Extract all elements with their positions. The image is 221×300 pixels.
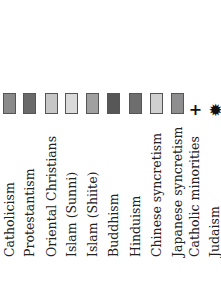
legend-label: Islam (Sunni) [64,172,80,257]
legend-label: Judaism [207,206,221,257]
legend-entry-catholicism: Catholicism [0,0,21,300]
legend-entry-islam-sunni: Islam (Sunni) [62,0,83,300]
legend-label: Buddhism [106,193,122,257]
swatch-japanese-syncretism [171,93,184,114]
religion-legend: Catholicism Protestantism Oriental Chris… [0,0,221,300]
legend-entry-chinese-syncretism: Chinese syncretism [147,0,168,300]
legend-label: Oriental Christians [44,136,60,257]
swatch-buddhism [107,93,120,114]
legend-entry-protestantism: Protestantism [20,0,41,300]
legend-entry-hinduism: Hinduism [126,0,147,300]
legend-label: Islam (Shiite) [85,172,101,257]
legend-label: Protestantism [22,168,38,257]
legend-entry-buddhism: Buddhism [104,0,125,300]
legend-label: Japanese syncretism [170,127,186,257]
legend-label: Chinese syncretism [149,133,165,257]
swatch-hinduism [129,93,142,114]
swatch-protestantism [23,93,36,114]
swatch-islam-shiite [86,93,99,114]
star-icon: ✹ [205,101,221,119]
swatch-oriental-christians [45,93,58,114]
legend-label: Catholic minorities [187,136,203,257]
legend-entry-catholic-minorities: + Catholic minorities [185,0,206,300]
legend-label: Hinduism [128,196,144,257]
legend-entry-oriental-christians: Oriental Christians [42,0,63,300]
legend-entry-islam-shiite: Islam (Shiite) [83,0,104,300]
legend-entry-judaism: ✹ Judaism [205,0,221,300]
swatch-chinese-syncretism [150,93,163,114]
legend-label: Catholicism [2,182,18,257]
swatch-islam-sunni [65,93,78,114]
swatch-catholicism [3,93,16,114]
plus-icon: + [185,101,206,119]
